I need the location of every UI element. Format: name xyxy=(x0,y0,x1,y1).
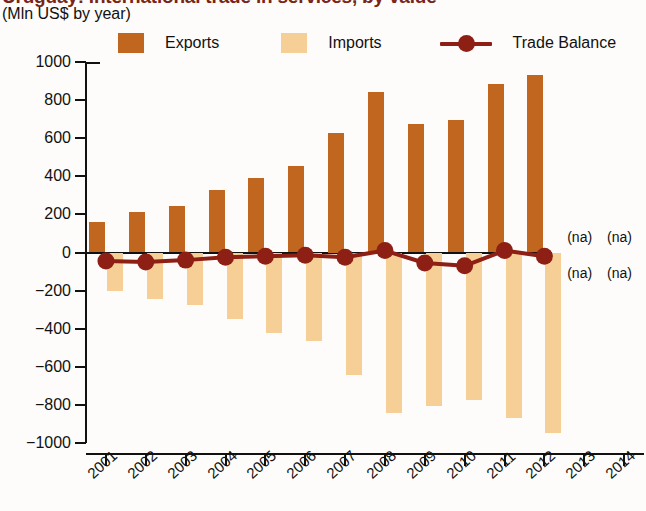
legend-item-imports[interactable]: Imports xyxy=(281,33,381,53)
legend-swatch-exports xyxy=(118,33,144,53)
y-axis-tick-label: 800 xyxy=(44,92,71,108)
y-axis-tick xyxy=(75,137,86,139)
legend-item-trade-balance[interactable]: Trade Balance xyxy=(440,33,616,53)
legend-label-imports: Imports xyxy=(328,34,381,52)
y-axis-tick xyxy=(75,99,86,101)
chart-legend: Exports Imports Trade Balance xyxy=(118,31,638,55)
y-axis-tick xyxy=(75,442,86,444)
legend-swatch-imports xyxy=(281,33,307,53)
trade-balance-marker xyxy=(496,242,513,259)
legend-swatch-trade-balance xyxy=(440,33,492,53)
trade-balance-marker xyxy=(456,257,473,274)
x-axis-tick-label: 2009 xyxy=(403,447,439,482)
trade-balance-marker xyxy=(177,252,194,269)
trade-balance-marker xyxy=(536,248,553,265)
x-axis-tick-label: 2005 xyxy=(243,447,279,482)
trade-balance-marker xyxy=(376,242,393,259)
y-axis-tick xyxy=(75,252,86,254)
legend-label-trade-balance: Trade Balance xyxy=(513,34,616,52)
y-axis-tick-label: 200 xyxy=(44,206,71,222)
x-axis-tick-label: 2002 xyxy=(124,447,160,482)
x-axis-tick-label: 2006 xyxy=(283,447,319,482)
x-axis-tick-label: 2014 xyxy=(602,447,638,482)
x-axis-line xyxy=(86,453,644,455)
x-axis-tick-label: 2003 xyxy=(164,447,200,482)
x-axis: 2001200220032004200520062007200820092010… xyxy=(86,443,646,511)
y-axis-tick-label: −1000 xyxy=(26,435,71,451)
na-label-below: (na) xyxy=(567,265,592,281)
y-axis-tick-label: −800 xyxy=(35,397,71,413)
trade-balance-marker xyxy=(297,247,314,264)
trade-balance-marker xyxy=(137,254,154,271)
y-axis-tick xyxy=(75,175,86,177)
na-label-above: (na) xyxy=(607,229,632,245)
na-label-below: (na) xyxy=(607,265,632,281)
y-axis-tick-label: 600 xyxy=(44,130,71,146)
legend-label-exports: Exports xyxy=(165,34,219,52)
y-axis-tick xyxy=(75,290,86,292)
chart-subtitle: (Mln US$ by year) xyxy=(2,5,131,23)
trade-balance-polyline xyxy=(106,251,544,266)
y-axis-tick xyxy=(75,366,86,368)
trade-balance-marker xyxy=(97,253,114,270)
y-axis-tick xyxy=(75,328,86,330)
trade-balance-marker xyxy=(337,249,354,266)
trade-balance-marker xyxy=(217,249,234,266)
y-axis-tick-label: −200 xyxy=(35,283,71,299)
x-axis-tick-label: 2001 xyxy=(84,447,120,482)
plot-area: 10008006004002000−200−400−600−800−1000 (… xyxy=(86,62,552,443)
y-axis-tick xyxy=(75,61,86,63)
y-axis-tick-label: −600 xyxy=(35,359,71,375)
na-label-above: (na) xyxy=(567,229,592,245)
y-axis-tick-label: 400 xyxy=(44,168,71,184)
x-axis-tick-label: 2004 xyxy=(204,447,240,482)
y-axis-tick-label: 1000 xyxy=(35,54,71,70)
y-axis-tick-label: −400 xyxy=(35,321,71,337)
y-axis-tick xyxy=(75,213,86,215)
trade-balance-marker xyxy=(257,248,274,265)
chart-root: Uruguay: International trade in services… xyxy=(0,0,646,511)
x-axis-tick-label: 2008 xyxy=(363,447,399,482)
x-axis-tick-label: 2012 xyxy=(522,447,558,482)
y-axis-tick xyxy=(75,404,86,406)
trade-balance-marker xyxy=(416,254,433,271)
trade-balance-line xyxy=(86,62,552,443)
x-axis-tick-label: 2010 xyxy=(443,447,479,482)
x-axis-tick-label: 2013 xyxy=(562,447,598,482)
legend-item-exports[interactable]: Exports xyxy=(118,33,219,53)
x-axis-tick-label: 2007 xyxy=(323,447,359,482)
y-axis-tick-label: 0 xyxy=(62,245,71,261)
